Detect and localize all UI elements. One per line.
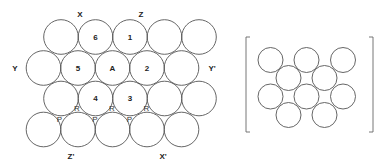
sphere-circle xyxy=(331,48,356,73)
axis-label: X xyxy=(77,10,83,19)
interstice-label: P xyxy=(57,115,62,124)
right-bracket xyxy=(369,37,373,132)
sphere-label: 1 xyxy=(128,33,133,42)
axis-label: Z' xyxy=(68,152,75,161)
axis-label: X' xyxy=(159,152,166,161)
sphere-circle xyxy=(331,84,356,109)
axis-label: Y xyxy=(12,64,18,73)
sphere-label: 6 xyxy=(93,33,98,42)
sphere-label: 2 xyxy=(145,64,150,73)
sphere-circle xyxy=(312,103,337,128)
sphere-label: 3 xyxy=(128,94,133,103)
axis-label: Z xyxy=(139,10,144,19)
left-bracket xyxy=(246,37,250,132)
sphere-circle xyxy=(258,48,283,73)
sphere-circle xyxy=(164,51,199,86)
sphere-circle xyxy=(147,81,182,116)
sphere-circle xyxy=(44,81,79,116)
sphere-circle xyxy=(258,84,283,109)
sphere-circle xyxy=(294,48,319,73)
interstice-label: P xyxy=(92,115,97,124)
sphere-circle xyxy=(130,112,165,147)
sphere-packing-diagram: 615A243XZYY'Z'X'RRRPPP xyxy=(0,0,387,166)
sphere-circle xyxy=(26,112,61,147)
bracketed-layer-diagram xyxy=(246,37,373,132)
close-packed-layer-diagram: 615A243XZYY'Z'X'RRRPPP xyxy=(12,10,216,161)
sphere-circle xyxy=(182,81,217,116)
sphere-label: 5 xyxy=(76,64,81,73)
axis-label: Y' xyxy=(208,64,215,73)
sphere-circle xyxy=(61,112,96,147)
sphere-circle xyxy=(95,112,130,147)
sphere-circle xyxy=(26,51,61,86)
sphere-label: 4 xyxy=(93,94,98,103)
interstice-label: P xyxy=(127,115,132,124)
sphere-circle xyxy=(182,20,217,55)
sphere-circle xyxy=(164,112,199,147)
sphere-circle xyxy=(276,66,301,91)
sphere-circle xyxy=(276,103,301,128)
interstice-label: R xyxy=(109,104,115,113)
sphere-circle xyxy=(294,84,319,109)
sphere-label: A xyxy=(110,64,116,73)
sphere-circle xyxy=(44,20,79,55)
sphere-circle xyxy=(312,66,337,91)
interstice-label: R xyxy=(144,104,150,113)
interstice-label: R xyxy=(74,104,80,113)
sphere-circle xyxy=(147,20,182,55)
